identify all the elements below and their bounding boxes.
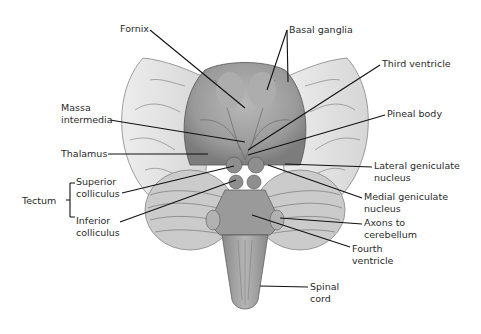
- label-medial-geniculate-line1: Medial geniculate: [364, 191, 448, 202]
- label-third-ventricle: Third ventricle: [382, 58, 451, 69]
- label-superior-colliculus-line2: colliculus: [76, 188, 120, 199]
- tectum-bracket: [66, 183, 75, 217]
- label-fornix: Fornix: [120, 23, 149, 34]
- label-spinal-cord-line2: cord: [310, 293, 331, 304]
- label-inferior-colliculus-line2: colliculus: [76, 227, 120, 238]
- label-massa-intermedia-line1: Massa: [61, 102, 91, 113]
- label-fourth-ventricle-line1: Fourth: [352, 243, 383, 254]
- label-pineal-body: Pineal body: [387, 108, 442, 119]
- label-basal-ganglia: Basal ganglia: [289, 24, 353, 35]
- label-spinal-cord-line1: Spinal: [310, 281, 339, 292]
- label-inferior-colliculus-line1: Inferior: [76, 215, 110, 226]
- label-massa-intermedia-line2: intermedia: [61, 114, 113, 125]
- label-medial-geniculate-line2: nucleus: [364, 203, 401, 214]
- label-lateral-geniculate-line2: nucleus: [374, 172, 411, 183]
- spinal-cord-leader: [260, 286, 308, 287]
- label-lateral-geniculate-line1: Lateral geniculate: [374, 160, 460, 171]
- brain-diagram: Fornix Basal ganglia Third ventricle Mas…: [0, 0, 481, 334]
- label-axons-to-cerebellum-line2: cerebellum: [364, 229, 417, 240]
- label-axons-to-cerebellum-line1: Axons to: [364, 217, 405, 228]
- label-superior-colliculus-line1: Superior: [76, 176, 116, 187]
- label-fourth-ventricle-line2: ventricle: [352, 255, 393, 266]
- label-tectum: Tectum: [22, 195, 56, 206]
- label-thalamus: Thalamus: [61, 148, 107, 159]
